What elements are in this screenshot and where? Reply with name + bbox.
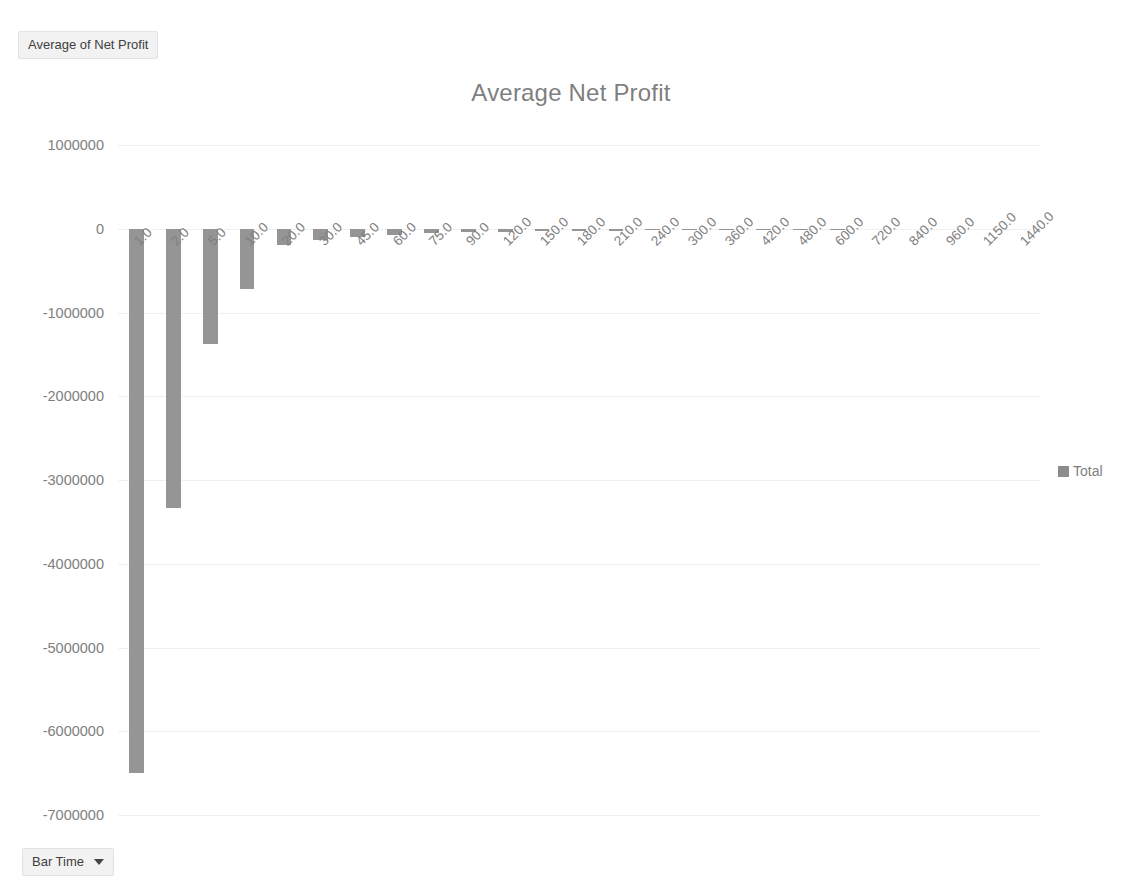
y-axis-tick-label: 1000000 bbox=[0, 137, 104, 153]
y-axis-tick-label: -5000000 bbox=[0, 640, 104, 656]
y-axis-tick-label: 0 bbox=[0, 221, 104, 237]
y-axis-tick-label: -2000000 bbox=[0, 388, 104, 404]
chevron-down-icon[interactable] bbox=[94, 859, 104, 865]
x-axis-labels: 1.02.05.010.020.030.045.060.075.090.0120… bbox=[118, 232, 1040, 302]
y-axis-tick-label: -3000000 bbox=[0, 472, 104, 488]
axis-field-button-label: Bar Time bbox=[32, 855, 84, 868]
y-axis-tick-label: -7000000 bbox=[0, 807, 104, 823]
bar[interactable] bbox=[129, 229, 144, 773]
y-axis-tick-label: -6000000 bbox=[0, 723, 104, 739]
y-gridline bbox=[118, 815, 1040, 816]
legend-label-total: Total bbox=[1073, 463, 1103, 479]
axis-field-button[interactable]: Bar Time bbox=[22, 848, 114, 876]
legend-swatch-total bbox=[1058, 466, 1069, 477]
chart-plot-frame: 1.02.05.010.020.030.045.060.075.090.0120… bbox=[0, 0, 1142, 883]
y-axis-tick-label: -1000000 bbox=[0, 305, 104, 321]
chart-legend: Total bbox=[1058, 463, 1103, 479]
y-axis-tick-label: -4000000 bbox=[0, 556, 104, 572]
